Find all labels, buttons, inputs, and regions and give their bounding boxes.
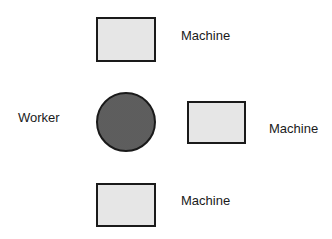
machine-right-box (187, 101, 246, 144)
machine-top-label: Machine (181, 28, 230, 43)
worker-label: Worker (18, 110, 60, 125)
machine-right-label: Machine (269, 121, 318, 136)
machine-bottom-label: Machine (181, 193, 230, 208)
machine-bottom-box (96, 183, 156, 227)
worker-circle (96, 92, 156, 152)
machine-top-box (96, 17, 156, 62)
